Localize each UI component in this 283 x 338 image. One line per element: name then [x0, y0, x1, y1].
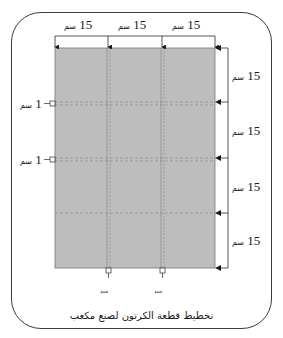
top-dimension-label-2: 15 سم	[118, 18, 146, 32]
right-dimension-label-1: 15 سم	[232, 69, 260, 83]
right-arrowheads	[215, 45, 221, 271]
top-dimension-label-3: 15 سم	[172, 18, 200, 32]
top-dimension-lines	[55, 36, 215, 47]
left-tab-markers	[44, 101, 55, 162]
bottom-tab-label-1: 1	[99, 290, 109, 295]
bottom-tab-label-2: 1	[153, 290, 163, 295]
bottom-tab-markers	[106, 268, 165, 278]
left-tab-label-2: 1 سم	[20, 153, 42, 167]
right-dimension-label-2: 15 سم	[232, 124, 260, 138]
left-tab-label-1: 1 سم	[20, 97, 42, 111]
cardboard-layout-diagram	[0, 0, 283, 338]
right-dimension-label-4: 15 سم	[232, 234, 260, 248]
right-dimension-label-3: 15 سم	[232, 180, 260, 194]
top-dimension-label-1: 15 سم	[64, 18, 92, 32]
diagram-caption: تخطيط قطعة الكرتون لصنع مكعب	[0, 310, 283, 321]
